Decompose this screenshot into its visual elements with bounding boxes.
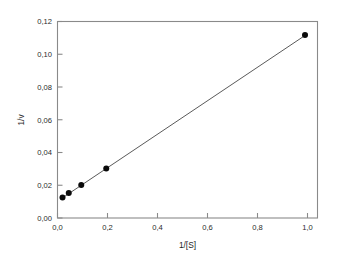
x-tick-label: 0,8	[252, 223, 263, 232]
x-tick-label: 0,0	[52, 223, 63, 232]
data-point	[60, 195, 66, 201]
y-tick-label: 0,02	[37, 181, 52, 190]
y-tick-label: 0,00	[37, 214, 52, 223]
y-tick-label: 0,10	[37, 50, 52, 59]
data-point	[78, 182, 84, 188]
y-tick-label: 0,04	[37, 148, 52, 157]
x-tick-label: 0,6	[202, 223, 213, 232]
chart-figure: 0,00 0,02 0,04 0,06 0,08 0,10 0,12 0,0 0…	[0, 0, 356, 266]
y-tick-label: 0,06	[37, 116, 52, 125]
x-tick-label: 0,2	[102, 223, 113, 232]
data-point	[302, 32, 308, 38]
y-tick-label: 0,12	[37, 17, 52, 26]
x-tick-label: 1,0	[302, 223, 313, 232]
y-axis-title: 1/v	[16, 114, 26, 126]
data-point	[66, 190, 72, 196]
data-point	[103, 165, 109, 171]
lineweaver-burk-plot: 0,00 0,02 0,04 0,06 0,08 0,10 0,12 0,0 0…	[0, 0, 356, 266]
x-axis-title: 1/[S]	[179, 240, 196, 250]
y-tick-label: 0,08	[37, 83, 52, 92]
x-tick-label: 0,4	[152, 223, 163, 232]
